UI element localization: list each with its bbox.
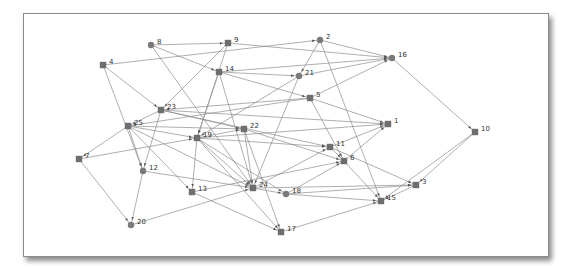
node-label: 22 [250, 122, 259, 130]
arrowhead-icon [278, 191, 281, 194]
node-label: 25 [134, 119, 143, 127]
node-label: 16 [398, 51, 407, 59]
circle-node-icon[interactable] [128, 222, 134, 228]
arrowhead-icon [336, 157, 339, 159]
edge-9-16 [228, 43, 392, 58]
edge-8-24 [151, 45, 253, 188]
square-node-icon[interactable] [225, 40, 231, 46]
circle-node-icon[interactable] [140, 168, 146, 174]
edge-8-9 [151, 43, 228, 45]
edge-25-22 [128, 126, 244, 129]
node-label: 11 [336, 140, 345, 148]
node-label: 23 [167, 103, 176, 111]
node-label: 1 [394, 117, 398, 125]
node-label: 3 [422, 178, 426, 186]
graph-node-9[interactable]: 9 [225, 36, 239, 46]
edge-5-16 [310, 58, 392, 98]
graph-node-1[interactable]: 1 [385, 117, 399, 127]
circle-node-icon[interactable] [283, 191, 289, 197]
square-node-icon[interactable] [307, 95, 313, 101]
arrowhead-icon [302, 95, 305, 97]
circle-node-icon[interactable] [317, 37, 323, 43]
graph-node-11[interactable]: 11 [327, 140, 345, 150]
graph-node-6[interactable]: 6 [341, 154, 355, 164]
graph-node-15[interactable]: 15 [378, 194, 396, 204]
square-node-icon[interactable] [189, 189, 195, 195]
arrowhead-icon [211, 68, 214, 70]
node-label: 13 [198, 185, 207, 193]
circle-node-icon[interactable] [296, 73, 302, 79]
square-node-icon[interactable] [194, 135, 200, 141]
graph-node-10[interactable]: 10 [472, 125, 490, 135]
edge-13-6 [192, 161, 344, 192]
graph-node-4[interactable]: 4 [100, 58, 114, 68]
graph-node-21[interactable]: 21 [296, 69, 314, 79]
edge-23-12 [143, 110, 161, 171]
node-label: 6 [350, 154, 355, 162]
node-label: 18 [292, 187, 301, 195]
graph-node-2[interactable]: 2 [317, 33, 331, 43]
graph-node-13[interactable]: 13 [189, 185, 207, 195]
arrowhead-icon [373, 202, 376, 204]
arrowhead-icon [245, 185, 248, 188]
node-label: 20 [137, 218, 146, 226]
nodes-layer: 1234567891011121314151617181920212223242… [76, 33, 490, 235]
square-node-icon[interactable] [158, 107, 164, 113]
square-node-icon[interactable] [76, 156, 82, 162]
circle-node-icon[interactable] [148, 42, 154, 48]
network-graph[interactable]: 1234567891011121314151617181920212223242… [0, 0, 570, 271]
square-node-icon[interactable] [378, 198, 384, 204]
node-label: 19 [203, 131, 212, 139]
edge-19-13 [192, 138, 197, 192]
edge-18-15 [286, 194, 381, 201]
square-node-icon[interactable] [327, 144, 333, 150]
square-node-icon[interactable] [250, 185, 256, 191]
arrowhead-icon [198, 130, 200, 133]
graph-node-20[interactable]: 20 [128, 218, 146, 228]
square-node-icon[interactable] [216, 69, 222, 75]
node-label: 2 [326, 33, 330, 41]
arrowhead-icon [189, 138, 192, 141]
arrowhead-icon [236, 129, 239, 132]
edge-2-16 [320, 40, 392, 58]
circle-node-icon[interactable] [389, 55, 395, 61]
arrowhead-icon [380, 120, 383, 122]
graph-node-7[interactable]: 7 [76, 152, 90, 162]
arrowhead-icon [291, 74, 294, 77]
square-node-icon[interactable] [241, 126, 247, 132]
arrowhead-icon [277, 224, 279, 227]
node-label: 17 [287, 225, 296, 233]
square-node-icon[interactable] [472, 129, 478, 135]
graph-node-18[interactable]: 18 [283, 187, 301, 197]
edge-7-20 [79, 159, 131, 225]
edge-10-15 [381, 132, 475, 201]
edge-22-24 [244, 129, 253, 188]
edge-5-25 [128, 98, 310, 126]
node-label: 9 [234, 36, 238, 44]
arrowhead-icon [220, 42, 223, 45]
square-node-icon[interactable] [385, 121, 391, 127]
graph-node-17[interactable]: 17 [278, 225, 296, 235]
square-node-icon[interactable] [341, 158, 347, 164]
square-node-icon[interactable] [100, 62, 106, 68]
edge-17-15 [281, 201, 381, 232]
edge-23-1 [161, 110, 388, 124]
arrowhead-icon [245, 189, 248, 191]
edge-19-17 [197, 138, 281, 232]
graph-node-16[interactable]: 16 [389, 51, 408, 61]
graph-node-19[interactable]: 19 [194, 131, 212, 141]
node-label: 4 [109, 58, 114, 66]
node-label: 8 [157, 38, 161, 46]
node-label: 5 [316, 91, 320, 99]
node-label: 24 [259, 181, 268, 189]
edge-19-18 [197, 138, 286, 194]
graph-node-25[interactable]: 25 [125, 119, 143, 129]
node-label: 10 [481, 125, 490, 133]
square-node-icon[interactable] [125, 123, 131, 129]
square-node-icon[interactable] [413, 182, 419, 188]
graph-node-3[interactable]: 3 [413, 178, 427, 188]
edges-layer [79, 40, 475, 232]
edge-16-10 [392, 58, 475, 132]
square-node-icon[interactable] [278, 229, 284, 235]
edge-25-13 [128, 126, 192, 192]
